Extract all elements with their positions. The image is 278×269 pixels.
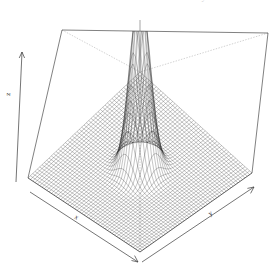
box-hidden-edges xyxy=(62,30,268,252)
z-axis xyxy=(16,52,25,182)
surface-plot-figure: Plot of the bivariate normal density xyxy=(0,0,278,269)
y-axis xyxy=(142,187,254,262)
plot-canvas: z x y xyxy=(0,0,278,269)
y-axis-label: y xyxy=(207,209,215,218)
z-axis-label: z xyxy=(4,92,12,96)
